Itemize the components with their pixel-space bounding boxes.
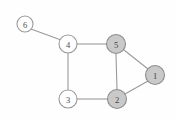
- graph-node-1[interactable]: 1: [146, 66, 165, 85]
- node-layer: 645132: [17, 16, 165, 109]
- edge-layer: [31, 29, 148, 99]
- graph-node-label-6: 6: [23, 20, 27, 30]
- graph-node-2[interactable]: 2: [108, 90, 127, 109]
- graph-edge-n5-n2: [116, 54, 117, 90]
- graph-edge-n2-n1: [125, 81, 148, 94]
- graph-node-3[interactable]: 3: [59, 90, 77, 108]
- graph-node-6[interactable]: 6: [17, 16, 33, 32]
- graph-node-label-5: 5: [114, 40, 118, 50]
- graph-node-label-1: 1: [153, 71, 157, 81]
- graph-edge-n5-n1: [124, 50, 148, 69]
- graph-edge-n6-n4: [31, 29, 61, 40]
- graph-node-4[interactable]: 4: [59, 35, 77, 53]
- graph-diagram: 645132: [0, 0, 176, 119]
- graph-node-label-2: 2: [115, 95, 119, 105]
- graph-node-5[interactable]: 5: [107, 35, 126, 54]
- graph-svg-canvas: 645132: [0, 0, 176, 119]
- graph-node-label-3: 3: [66, 95, 70, 105]
